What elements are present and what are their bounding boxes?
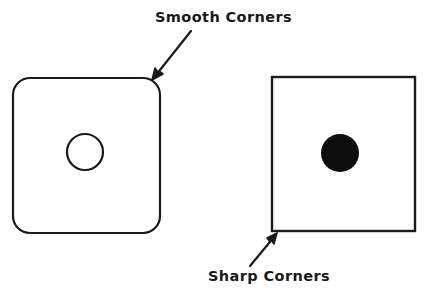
hollow-circle-shape: [67, 134, 103, 170]
smooth-corners-arrow: [152, 31, 191, 80]
sharp-corners-arrow: [250, 233, 277, 266]
diagram-canvas: Smooth Corners Sharp Corners: [0, 0, 426, 294]
filled-circle-shape: [321, 134, 359, 172]
rounded-square-shape: [13, 78, 160, 233]
sharp-corners-label: Sharp Corners: [208, 268, 330, 284]
diagram-illustration: Smooth Corners Sharp Corners: [0, 0, 426, 294]
smooth-corners-label: Smooth Corners: [155, 9, 292, 25]
